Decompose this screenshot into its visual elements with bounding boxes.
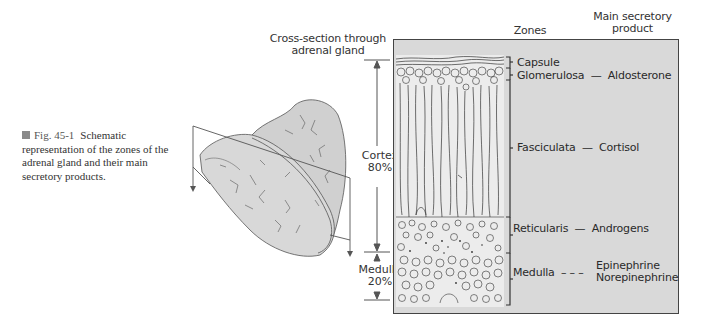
zone-name: Reticularis [513,222,568,235]
histology-section-drawing [396,55,504,307]
zone-product: Cortisol [599,141,639,154]
zone-row-glomerulosa: Glomerulosa — Aldosterone [517,70,671,82]
zones-header: Zones [505,25,555,37]
zone-name: Fasciculata [517,141,576,154]
zone-name: Medulla [513,266,555,279]
cross-section-header: Cross-section through adrenal gland [258,33,398,57]
zone-name: Capsule [517,56,560,69]
adrenal-gland-illustration [190,60,350,280]
figure-caption: Fig. 45-1Schematic representation of the… [22,129,182,183]
zone-name: Glomerulosa [517,69,584,82]
caption-square-icon [22,131,30,139]
product-header: Main secretory product [585,11,680,35]
zone-separator: — [582,141,593,154]
zone-row-capsule: Capsule [517,57,560,69]
zone-separator: — [575,222,586,235]
zones-header-text: Zones [514,24,547,37]
zone-row-fasciculata: Fasciculata — Cortisol [517,142,639,154]
zone-row-medulla: Medulla – – – [513,267,586,279]
zone-separator: – – – [561,266,584,279]
zone-separator: — [591,69,602,82]
medulla-products: Epinephrine Norepinephrine [596,260,678,284]
zone-product-2: Norepinephrine [596,272,678,284]
zone-product: Androgens [592,222,649,235]
zone-product: Aldosterone [608,69,672,82]
figure-number: Fig. 45-1 [34,129,74,141]
zone-row-reticularis: Reticularis — Androgens [513,223,649,235]
product-header-line2: product [585,23,680,35]
